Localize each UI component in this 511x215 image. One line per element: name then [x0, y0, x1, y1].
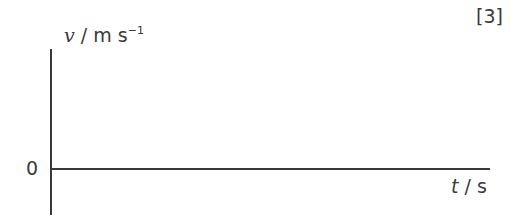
chart-axes [0, 0, 511, 215]
